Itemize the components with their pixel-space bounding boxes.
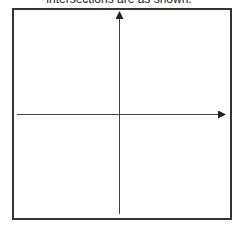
coordinate-axes xyxy=(0,0,238,226)
